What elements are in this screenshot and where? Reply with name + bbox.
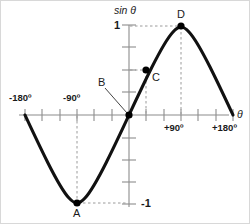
data-point-a	[73, 199, 80, 206]
point-label-c: C	[152, 72, 160, 83]
y-axis-title: sin θ	[114, 5, 136, 16]
data-point-c	[142, 66, 149, 73]
point-label-d: D	[177, 9, 185, 20]
x-tick-label-plus180: +180º	[212, 123, 237, 133]
x-tick-label-plus90: +90º	[164, 123, 184, 133]
point-label-a: A	[73, 208, 80, 219]
y-axis-min-label: -1	[141, 198, 151, 209]
x-tick-label-minus180: -180º	[9, 93, 31, 103]
data-point-b	[125, 111, 132, 118]
x-tick-label-minus90: -90º	[63, 93, 80, 103]
y-axis-max-label: 1	[114, 20, 120, 31]
data-point-d	[177, 22, 184, 29]
x-axis-title: θ	[237, 109, 243, 120]
plot-canvas	[1, 1, 250, 224]
sine-graph-figure: sin θ θ 1 -1 -180º -90º +90º +180º A B C…	[0, 0, 250, 224]
point-label-b: B	[98, 77, 105, 88]
